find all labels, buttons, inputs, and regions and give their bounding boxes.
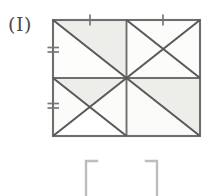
right-bracket-icon — [146, 161, 157, 196]
left-bracket-icon — [86, 161, 97, 196]
bottom-brackets — [86, 161, 157, 196]
figure-container: (I) — [0, 0, 209, 196]
geometry-diagram-svg — [0, 0, 209, 196]
